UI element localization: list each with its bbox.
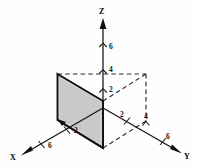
coordinate-axes-diagram: Z X Y 6 4 2 2 6 2 4 6 [0,0,197,167]
y-tick-label-6: 6 [166,132,170,141]
x-tick-label-2: 2 [74,126,78,135]
x-tick-label-6: 6 [48,141,52,150]
y-tick-label-2: 2 [120,110,124,119]
x-axis-label: X [10,153,16,162]
z-tick-label-4: 4 [109,65,113,74]
y-axis-label: Y [184,152,190,161]
y-tick-label-4: 4 [144,112,148,121]
z-tick-label-6: 6 [109,42,113,51]
z-axis-label: Z [99,7,104,16]
z-tick-label-2: 2 [109,85,113,94]
figure-root: Z X Y 6 4 2 2 6 2 4 6 [0,0,197,167]
